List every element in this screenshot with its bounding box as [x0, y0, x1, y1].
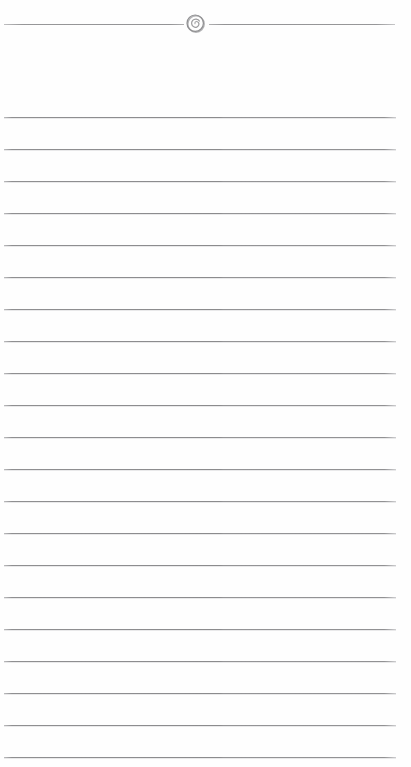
ruled-line [4, 405, 396, 406]
ruled-line [4, 437, 396, 438]
ruled-line [4, 565, 396, 566]
ruled-line [4, 149, 396, 150]
ruled-line [4, 213, 396, 214]
ruled-line [4, 469, 396, 470]
ruled-line [4, 309, 396, 310]
ruled-line [4, 661, 396, 662]
ruled-line [4, 629, 396, 630]
ruled-line [4, 597, 396, 598]
ruled-lines [0, 0, 411, 767]
ruled-line [4, 117, 396, 118]
ruled-line [4, 245, 396, 246]
ruled-line [4, 693, 396, 694]
ruled-line [4, 181, 396, 182]
ruled-line [4, 533, 396, 534]
ruled-line [4, 725, 396, 726]
ruled-line [4, 341, 396, 342]
ruled-line [4, 501, 396, 502]
ruled-line [4, 277, 396, 278]
ruled-line [4, 373, 396, 374]
lined-paper-page [0, 0, 411, 767]
ruled-line [4, 757, 396, 758]
